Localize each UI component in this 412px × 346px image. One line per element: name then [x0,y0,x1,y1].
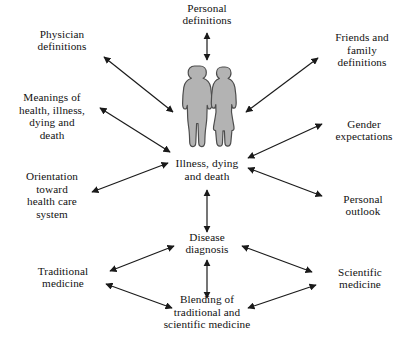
node-meanings-of-health: Meanings of health, illness, dying and d… [0,91,104,141]
two-person-silhouette-icon [180,62,238,150]
female-figure-icon [211,67,236,146]
node-blending-medicine: Blending of traditional and scientific m… [137,293,277,331]
node-illness-dying-death: Illness, dying and death [149,157,265,183]
conn-physician-definitions [104,57,173,112]
node-personal-outlook: Personal outlook [316,193,410,218]
conn-friends-family [246,58,318,112]
male-figure-icon [183,66,212,147]
node-orientation-health-care: Orientation toward health care system [1,170,103,220]
node-scientific-medicine: Scientific medicine [312,266,408,291]
node-physician-definitions: Physician definitions [8,28,116,53]
diagram-canvas: Personal definitionsPhysician definition… [0,0,412,346]
node-disease-diagnosis: Disease diagnosis [157,231,257,256]
node-personal-definitions: Personal definitions [152,2,262,27]
conn-meanings-health [100,108,170,152]
conn-gender-expectations [248,124,322,158]
node-traditional-medicine: Traditional medicine [11,265,115,290]
node-friends-family-definitions: Friends and family definitions [312,31,412,69]
node-gender-expectations: Gender expectations [316,118,412,143]
